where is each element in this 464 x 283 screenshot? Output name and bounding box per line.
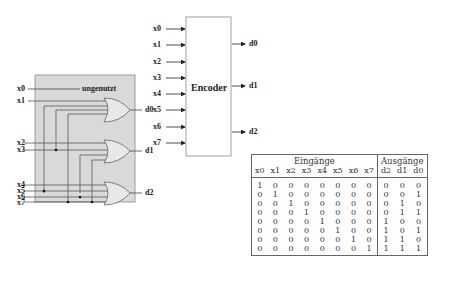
input-cell: 0 <box>314 235 330 244</box>
output-cell: 1 <box>377 235 394 244</box>
circuit-input-x1: x1 <box>17 97 25 105</box>
col-header: x1 <box>268 166 284 178</box>
col-header: d2 <box>377 166 394 178</box>
input-cell: 1 <box>283 199 299 208</box>
input-cell: 0 <box>330 199 346 208</box>
output-cell: 1 <box>410 208 427 217</box>
input-cell: 0 <box>252 199 268 208</box>
col-header: x4 <box>314 166 330 178</box>
encoder-output-d2: d2 <box>249 128 257 136</box>
output-cell: 1 <box>377 244 394 256</box>
input-cell: 0 <box>314 244 330 256</box>
column-header-row: x0 x1 x2 x3 x4 x5 x6 x7 d2 d1 d0 <box>252 166 428 178</box>
encoder-input-x2: x2 <box>153 58 161 66</box>
input-cell: 0 <box>283 217 299 226</box>
input-cell: 0 <box>299 178 315 191</box>
input-cell: 0 <box>361 226 377 235</box>
col-header: d1 <box>394 166 410 178</box>
encoder-input-x5: x5 <box>153 106 161 114</box>
input-cell: 0 <box>346 199 362 208</box>
input-cell: 0 <box>361 235 377 244</box>
input-cell: 0 <box>346 208 362 217</box>
inputs-group-header: Eingänge <box>252 155 378 167</box>
output-cell: 1 <box>410 244 427 256</box>
truth-table-body: 1000000000001000000001001000000100001000… <box>252 178 428 256</box>
col-header: x3 <box>299 166 315 178</box>
output-cell: 0 <box>394 190 410 199</box>
input-cell: 0 <box>346 178 362 191</box>
table-row: 00010000011 <box>252 208 428 217</box>
unused-label: ungenutzt <box>82 85 116 93</box>
input-cell: 1 <box>252 178 268 191</box>
circuit-input-x0: x0 <box>17 85 25 93</box>
output-cell: 1 <box>394 244 410 256</box>
table-row: 00000100101 <box>252 226 428 235</box>
encoder-output-d1: d1 <box>249 82 257 90</box>
input-cell: 0 <box>314 226 330 235</box>
output-cell: 0 <box>377 190 394 199</box>
input-cell: 0 <box>252 244 268 256</box>
input-cell: 0 <box>314 178 330 191</box>
output-cell: 0 <box>377 199 394 208</box>
encoder-input-x4: x4 <box>153 90 161 98</box>
input-cell: 0 <box>299 235 315 244</box>
input-cell: 0 <box>361 208 377 217</box>
input-cell: 0 <box>346 217 362 226</box>
input-cell: 0 <box>252 226 268 235</box>
col-header: x6 <box>346 166 362 178</box>
input-cell: 0 <box>268 235 284 244</box>
input-cell: 0 <box>314 208 330 217</box>
output-cell: 0 <box>410 235 427 244</box>
input-cell: 0 <box>346 226 362 235</box>
table-row: 10000000000 <box>252 178 428 191</box>
table-row: 01000000001 <box>252 190 428 199</box>
output-cell: 0 <box>377 178 394 191</box>
output-cell: 0 <box>394 217 410 226</box>
output-cell: 1 <box>394 199 410 208</box>
input-cell: 1 <box>330 226 346 235</box>
outputs-group-header: Ausgänge <box>377 155 427 167</box>
circuit-input-x7: x7 <box>17 199 25 207</box>
output-cell: 0 <box>410 199 427 208</box>
output-cell: 1 <box>394 235 410 244</box>
input-cell: 0 <box>346 244 362 256</box>
col-header: x5 <box>330 166 346 178</box>
output-cell: 0 <box>410 178 427 191</box>
input-cell: 0 <box>299 244 315 256</box>
input-cell: 0 <box>299 199 315 208</box>
table-row: 00001000100 <box>252 217 428 226</box>
input-cell: 0 <box>299 217 315 226</box>
output-cell: 1 <box>410 190 427 199</box>
input-cell: 0 <box>268 178 284 191</box>
encoder-input-x6: x6 <box>153 123 161 131</box>
circuit-output-d2: d2 <box>145 189 153 197</box>
table-row: 00000010110 <box>252 235 428 244</box>
circuit-output-d1: d1 <box>145 147 153 155</box>
input-cell: 0 <box>330 244 346 256</box>
input-cell: 0 <box>330 235 346 244</box>
encoder-input-x0: x0 <box>153 25 161 33</box>
table-row: 00000001111 <box>252 244 428 256</box>
col-header: d0 <box>410 166 427 178</box>
input-cell: 0 <box>268 217 284 226</box>
output-cell: 0 <box>377 208 394 217</box>
input-cell: 0 <box>252 190 268 199</box>
input-cell: 0 <box>268 208 284 217</box>
input-cell: 0 <box>330 208 346 217</box>
input-cell: 0 <box>299 190 315 199</box>
input-cell: 0 <box>268 226 284 235</box>
output-cell: 0 <box>410 217 427 226</box>
input-cell: 0 <box>361 199 377 208</box>
input-cell: 0 <box>346 190 362 199</box>
input-cell: 0 <box>314 199 330 208</box>
input-cell: 0 <box>361 190 377 199</box>
col-header: x0 <box>252 166 268 178</box>
encoder-input-x3: x3 <box>153 74 161 82</box>
table-row: 00100000010 <box>252 199 428 208</box>
input-cell: 0 <box>268 199 284 208</box>
input-cell: 0 <box>283 226 299 235</box>
encoder-output-d0: d0 <box>249 40 257 48</box>
input-cell: 1 <box>299 208 315 217</box>
input-cell: 0 <box>252 208 268 217</box>
input-cell: 0 <box>283 244 299 256</box>
